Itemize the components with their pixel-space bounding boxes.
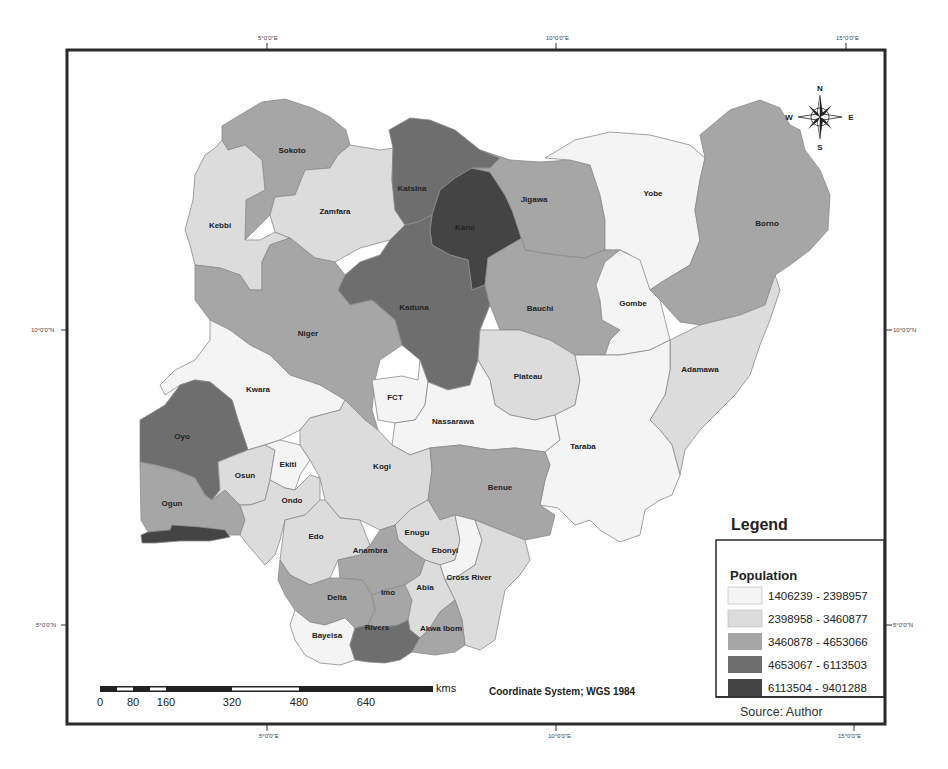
bottom-lon-label-5e: 5°0'0"E: [259, 733, 279, 739]
label-kaduna: Kaduna: [399, 303, 429, 312]
compass-west: W: [785, 113, 793, 122]
label-jigawa: Jigawa: [521, 195, 548, 204]
legend: Legend Population 1406239 - 2398957 2398…: [716, 516, 884, 719]
label-sokoto: Sokoto: [278, 146, 305, 155]
label-kwara: Kwara: [246, 385, 271, 394]
map-canvas: 5°0'0"E 10°0'0"E 15°0'0"E 5°0'0"E 10°0'0…: [0, 0, 948, 769]
legend-swatch-2: [728, 610, 762, 627]
coordinate-system: Coordinate System; WGS 1984: [489, 686, 636, 697]
top-lon-label-5e: 5°0'0"E: [258, 35, 278, 41]
label-katsina: Katsina: [398, 184, 427, 193]
label-kogi: Kogi: [373, 462, 391, 471]
top-lon-label-10e: 10°0'0"E: [546, 35, 569, 41]
label-yobe: Yobe: [644, 189, 664, 198]
label-gombe: Gombe: [619, 299, 647, 308]
label-akwa-ibom: Akwa Ibom: [420, 624, 462, 633]
scale-tick-640: 640: [357, 696, 375, 708]
label-ondo: Ondo: [282, 496, 303, 505]
scale-tick-480: 480: [290, 696, 308, 708]
label-abia: Abia: [416, 583, 434, 592]
label-kano: Kano: [455, 223, 475, 232]
bottom-lon-label-10e: 10°0'0"E: [548, 733, 571, 739]
left-lat-label-5n: 5°0'0"N: [36, 622, 56, 628]
label-delta: Delta: [327, 593, 347, 602]
scale-unit: kms: [436, 682, 457, 694]
legend-swatch-4: [728, 656, 762, 673]
top-lon-label-15e: 15°0'0"E: [836, 35, 859, 41]
label-nassarawa: Nassarawa: [432, 417, 474, 426]
label-edo: Edo: [308, 532, 323, 541]
label-bauchi: Bauchi: [527, 304, 554, 313]
label-plateau: Plateau: [514, 372, 543, 381]
compass-south: S: [817, 143, 823, 152]
scale-bar: kms 0 80 160 320 480 640: [97, 682, 457, 708]
label-oyo: Oyo: [174, 432, 190, 441]
label-rivers: Rivers: [365, 623, 390, 632]
right-lat-label-5n: 5°0'0"N: [893, 622, 913, 628]
right-lat-label-10n: 10°0'0"N: [893, 327, 916, 333]
label-kebbi: Kebbi: [209, 221, 231, 230]
legend-title: Legend: [731, 516, 788, 533]
legend-subtitle: Population: [730, 568, 797, 583]
legend-item-4: 4653067 - 6113503: [768, 659, 867, 671]
label-imo: Imo: [381, 588, 395, 597]
label-adamawa: Adamawa: [681, 365, 719, 374]
legend-item-3: 3460878 - 4653066: [768, 636, 868, 648]
label-ekiti: Ekiti: [280, 460, 297, 469]
legend-item-5: 6113504 - 9401288: [768, 682, 867, 694]
label-anambra: Anambra: [353, 546, 388, 555]
legend-swatch-5: [728, 679, 762, 696]
scale-tick-80: 80: [127, 696, 139, 708]
label-fct: FCT: [387, 393, 403, 402]
label-borno: Borno: [755, 219, 779, 228]
label-taraba: Taraba: [570, 442, 596, 451]
legend-item-2: 2398958 - 3460877: [768, 613, 868, 625]
scale-tick-0: 0: [97, 696, 103, 708]
compass-north: N: [817, 84, 823, 93]
left-lat-label-10n: 10°0'0"N: [31, 327, 54, 333]
label-cross-river: Cross River: [447, 573, 492, 582]
bottom-lon-label-15e: 15°0'0"E: [838, 733, 861, 739]
label-zamfara: Zamfara: [319, 207, 351, 216]
legend-swatch-3: [728, 633, 762, 650]
scale-tick-320: 320: [223, 696, 241, 708]
label-ebonyi: Ebonyi: [432, 546, 459, 555]
scale-tick-160: 160: [157, 696, 175, 708]
label-enugu: Enugu: [405, 528, 430, 537]
label-bayelsa: Bayelsa: [312, 631, 343, 640]
label-niger: Niger: [298, 329, 318, 338]
compass-east: E: [848, 113, 854, 122]
legend-item-1: 1406239 - 2398957: [768, 590, 868, 602]
source-credit: Source: Author: [740, 705, 823, 719]
label-ogun: Ogun: [162, 499, 183, 508]
label-osun: Osun: [235, 471, 256, 480]
label-benue: Benue: [488, 483, 513, 492]
legend-swatch-1: [728, 587, 762, 604]
